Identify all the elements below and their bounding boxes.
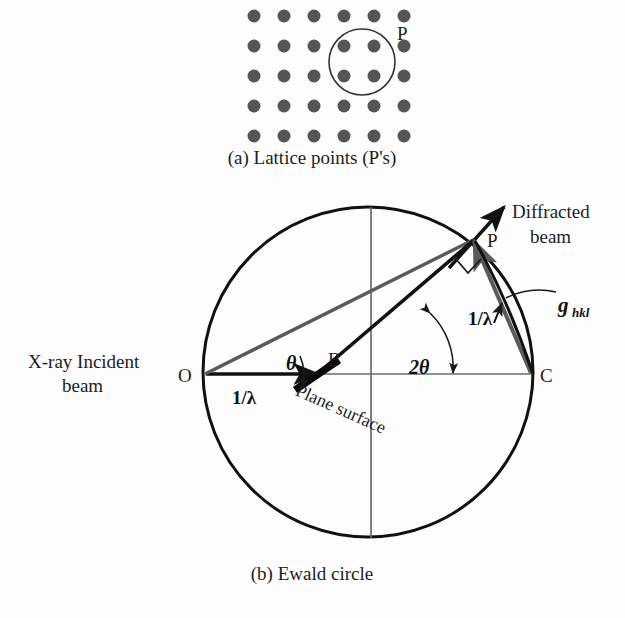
lattice-point-P-label: P — [397, 23, 408, 44]
inverse-lambda-diffracted-label: 1/λ — [468, 308, 493, 329]
ewald-circle-panel: O B C P X-ray Incident beam Diffracted b… — [28, 201, 590, 585]
g-hkl-label-group: g hkl — [557, 293, 590, 320]
lattice-dot — [248, 70, 261, 83]
diffracted-beam-label-line1: Diffracted — [512, 201, 590, 222]
incident-beam-label-line2: beam — [62, 375, 103, 396]
lattice-dot — [368, 10, 381, 23]
lattice-dot — [368, 70, 381, 83]
point-B-label: B — [328, 349, 341, 370]
right-angle-marker — [455, 258, 481, 273]
lattice-dot — [278, 70, 291, 83]
lattice-dot — [248, 10, 261, 23]
lattice-dot — [308, 40, 321, 53]
two-theta-label: 2θ — [408, 356, 430, 378]
lattice-dot — [368, 100, 381, 113]
point-P-label: P — [487, 230, 498, 251]
lattice-dot — [368, 40, 381, 53]
lattice-dot — [278, 130, 291, 143]
lattice-dot — [308, 10, 321, 23]
lattice-dot — [368, 130, 381, 143]
lattice-dot — [308, 130, 321, 143]
point-C-label: C — [540, 365, 553, 386]
panel-a-caption: (a) Lattice points (P's) — [228, 147, 397, 169]
g-hkl-arrowhead — [494, 303, 502, 323]
vector-C-to-P — [474, 241, 531, 373]
diffracted-beam-label-line2: beam — [530, 226, 571, 247]
lattice-dot — [338, 10, 351, 23]
lattice-dot — [278, 40, 291, 53]
lattice-dot — [338, 100, 351, 113]
lattice-dot-grid — [248, 10, 411, 143]
lattice-dot — [248, 130, 261, 143]
lattice-dot — [278, 10, 291, 23]
lattice-dot — [248, 40, 261, 53]
inverse-lambda-incident-label: 1/λ — [232, 387, 257, 408]
lattice-dot — [398, 10, 411, 23]
lattice-dot — [398, 70, 411, 83]
figure-root: P (a) Lattice points (P's) — [0, 0, 625, 618]
lattice-dot — [338, 40, 351, 53]
lattice-selection-circle — [329, 29, 395, 95]
ewald-construction-figure: P (a) Lattice points (P's) — [0, 0, 625, 618]
g-vector-subscript: hkl — [572, 305, 590, 320]
lattice-dot — [278, 100, 291, 113]
lattice-dot — [338, 130, 351, 143]
plane-surface-label: Plane surface — [293, 380, 389, 438]
lattice-dot — [248, 100, 261, 113]
theta-label: θ — [286, 352, 297, 374]
lattice-dot — [308, 70, 321, 83]
plane-surface-label-group: Plane surface — [293, 380, 389, 438]
two-theta-angle-arc — [430, 313, 453, 373]
lattice-dot — [338, 70, 351, 83]
point-O-label: O — [178, 365, 192, 386]
panel-b-caption: (b) Ewald circle — [251, 563, 373, 585]
lattice-dot — [398, 100, 411, 113]
lattice-dot — [308, 100, 321, 113]
incident-beam-label-line1: X-ray Incident — [28, 351, 140, 372]
lattice-points-panel: P (a) Lattice points (P's) — [228, 10, 411, 170]
lattice-dot — [398, 130, 411, 143]
g-vector-label: g — [557, 293, 569, 317]
